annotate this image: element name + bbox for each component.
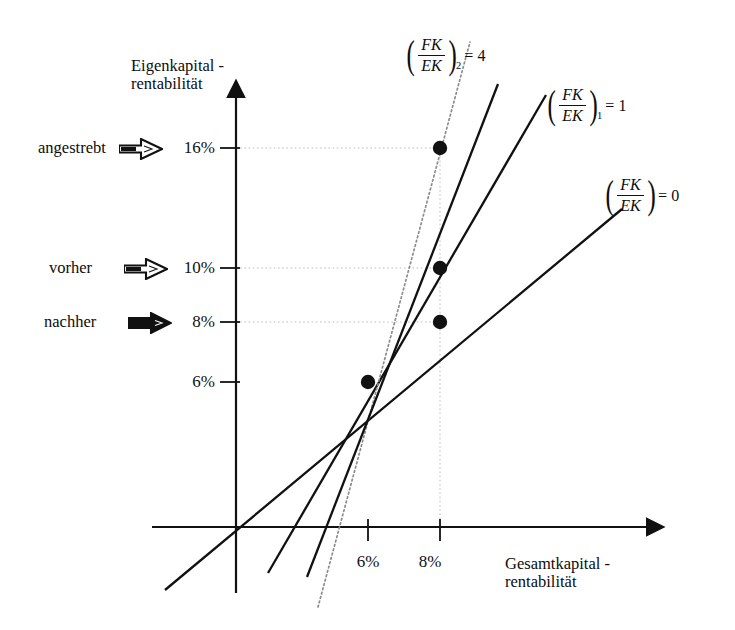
y-tick-label-16: 16%	[155, 138, 215, 157]
y-axis-title-line1: Eigenkapital -	[131, 57, 224, 75]
legend-1-denominator: EK	[559, 106, 585, 125]
left-paren: (	[407, 39, 415, 72]
right-paren: )	[589, 89, 597, 122]
series-line-fkek-1	[268, 95, 546, 573]
x-axis-title-line2: rentabilität	[505, 573, 610, 591]
series-line-fkek-0	[165, 209, 622, 590]
hollow-arrow-icon	[124, 258, 168, 280]
marker-label-nachher: nachher	[44, 313, 96, 331]
figure-canvas: Eigenkapital - rentabilität Gesamtkapita…	[0, 0, 735, 630]
marker-label-angestrebt: angestrebt	[38, 139, 106, 157]
legend-1-value: = 1	[605, 97, 626, 115]
x-tick-label-6: 6%	[348, 552, 388, 571]
right-paren: )	[647, 179, 655, 212]
legend-2-value: = 4	[464, 47, 485, 65]
legend-1-numerator: FK	[559, 86, 585, 106]
legend-2-denominator: EK	[418, 56, 444, 75]
legend-fkek-1: ( FK EK ) 1 = 1	[545, 86, 626, 125]
x-tick-marks	[368, 519, 440, 541]
marker-label-vorher: vorher	[49, 259, 92, 277]
legend-1-subscript: 1	[597, 110, 602, 125]
legend-fkek-2: ( FK EK ) 2 = 4	[404, 36, 485, 75]
left-paren: (	[606, 179, 614, 212]
x-tick-label-8: 8%	[410, 552, 450, 571]
left-paren: (	[548, 89, 556, 122]
y-axis-title: Eigenkapital - rentabilität	[131, 57, 224, 94]
data-points	[361, 141, 447, 389]
point-pivot	[361, 375, 375, 389]
right-paren: )	[448, 39, 456, 72]
legend-0-denominator: EK	[617, 196, 643, 215]
hollow-arrow-icon	[119, 138, 163, 160]
series-line-steep-solid	[307, 84, 498, 577]
series-line-fkek-4	[318, 42, 470, 607]
point-angestrebt	[433, 141, 447, 155]
legend-0-value: = 0	[658, 187, 679, 205]
x-axis-title-line1: Gesamtkapital -	[505, 555, 610, 573]
point-nachher	[433, 315, 447, 329]
y-tick-label-6: 6%	[155, 372, 215, 391]
point-vorher	[433, 261, 447, 275]
legend-fkek-0: ( FK EK ) = 0	[603, 176, 679, 215]
x-axis-title: Gesamtkapital - rentabilität	[505, 555, 610, 592]
legend-2-numerator: FK	[418, 36, 444, 56]
y-axis-title-line2: rentabilität	[131, 75, 224, 93]
guide-lines	[236, 148, 440, 527]
solid-arrow-icon	[128, 312, 172, 334]
legend-2-subscript: 2	[456, 60, 461, 75]
legend-0-numerator: FK	[617, 176, 643, 196]
